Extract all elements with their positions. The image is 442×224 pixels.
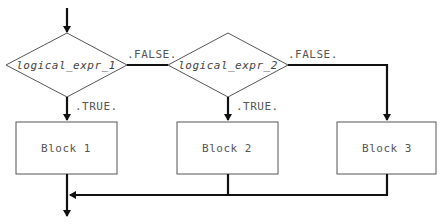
block-3-merge-line: [228, 174, 387, 195]
d1-false-label: .FALSE.: [127, 48, 177, 61]
d2-false-label: .FALSE.: [288, 48, 338, 61]
d1-true-label: .TRUE.: [75, 100, 118, 113]
block-3-label: Block 3: [362, 142, 412, 155]
d2-false-connector: [288, 65, 387, 120]
block-2-merge-line: [70, 174, 228, 195]
d2-true-label: .TRUE.: [236, 100, 279, 113]
decision-1-label: logical_expr_1: [16, 59, 116, 72]
block-1-label: Block 1: [41, 142, 91, 155]
decision-2-label: logical_expr_2: [178, 59, 278, 72]
flowchart: logical_expr_1 .FALSE. logical_expr_2 .F…: [0, 0, 442, 224]
block-2-label: Block 2: [202, 142, 252, 155]
